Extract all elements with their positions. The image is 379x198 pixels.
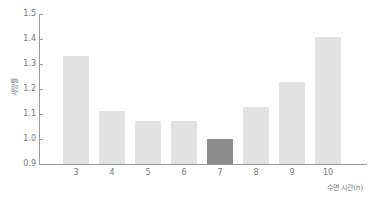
- x-tick-label: 8: [243, 168, 269, 177]
- bar-7: [207, 139, 233, 164]
- x-tick-label: 9: [279, 168, 305, 177]
- bar-5: [135, 121, 161, 164]
- x-tick-label: 6: [171, 168, 197, 177]
- bar-9: [279, 82, 305, 164]
- x-axis: [39, 164, 367, 165]
- y-tick: [39, 64, 43, 65]
- bar-8: [243, 107, 269, 164]
- x-tick-label: 4: [99, 168, 125, 177]
- y-tick: [39, 89, 43, 90]
- y-tick: [39, 39, 43, 40]
- bar-4: [99, 111, 125, 164]
- y-tick-label: 0.9: [10, 159, 36, 169]
- bar-10: [315, 37, 341, 164]
- y-tick-label: 1.4: [10, 34, 36, 44]
- y-tick-label: 1.1: [10, 109, 36, 119]
- x-axis-title: 수면 시간(h): [327, 182, 363, 192]
- y-axis-title: 사망률: [9, 78, 19, 96]
- x-tick-label: 10: [315, 168, 341, 177]
- y-tick-label: 1.0: [10, 134, 36, 144]
- bar-3: [63, 56, 89, 164]
- x-tick-label: 7: [207, 168, 233, 177]
- y-tick-label: 1.3: [10, 59, 36, 69]
- y-tick-label: 1.5: [10, 9, 36, 19]
- y-tick: [39, 114, 43, 115]
- bar-chart: 1.5 1.4 1.3 1.2 1.1 1.0 0.9 345678910 사망…: [0, 0, 379, 198]
- y-tick: [39, 139, 43, 140]
- x-tick-label: 3: [63, 168, 89, 177]
- bar-6: [171, 121, 197, 164]
- y-tick: [39, 14, 43, 15]
- x-tick-label: 5: [135, 168, 161, 177]
